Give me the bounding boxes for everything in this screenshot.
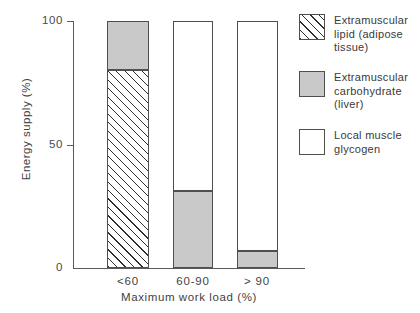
bar-group-lt60: [107, 21, 149, 268]
legend-item-carbohydrate: Extramuscular carbohydrate (liver): [299, 71, 420, 112]
x-axis-line: [73, 268, 305, 269]
y-axis-title: Energy supply (%): [20, 59, 32, 199]
bar-segment-carbohydrate: [107, 21, 149, 70]
bar-group-60-90: [173, 21, 213, 268]
hatch-pattern-icon: [300, 15, 324, 39]
y-tick-label-100: 100: [23, 14, 63, 26]
y-tick-mark-50: [67, 145, 73, 146]
bar-segment-glycogen: [237, 21, 278, 251]
bar-segment-glycogen: [173, 21, 213, 191]
legend-label-lipid: Extramuscular lipid (adipose tissue): [334, 14, 420, 55]
x-axis-title: Maximum work load (%): [73, 291, 305, 303]
hatch-pattern-icon: [108, 71, 148, 267]
bar-group-gt90: [237, 21, 278, 268]
legend-swatch-lipid: [299, 14, 325, 40]
y-tick-label-0: 0: [23, 261, 63, 273]
legend-swatch-carbohydrate: [299, 71, 325, 97]
bar-segment-carbohydrate: [173, 191, 213, 268]
legend-item-lipid: Extramuscular lipid (adipose tissue): [299, 14, 420, 55]
legend-label-carbohydrate: Extramuscular carbohydrate (liver): [334, 71, 420, 112]
legend-item-glycogen: Local muscle glycogen: [299, 129, 402, 156]
x-category-label-60-90: 60-90: [161, 275, 225, 287]
bar-segment-lipid: [107, 70, 149, 268]
legend-swatch-glycogen: [299, 129, 325, 155]
x-category-label-gt90: > 90: [227, 275, 287, 287]
legend-label-glycogen: Local muscle glycogen: [334, 129, 402, 156]
bar-segment-carbohydrate: [237, 251, 278, 268]
x-category-label-lt60: <60: [98, 275, 158, 287]
y-tick-mark-100: [67, 21, 73, 22]
stacked-bar-chart: 100 50 0 Energy supply (%) <60 60-90 > 9…: [0, 0, 420, 313]
y-axis-line: [73, 21, 74, 269]
